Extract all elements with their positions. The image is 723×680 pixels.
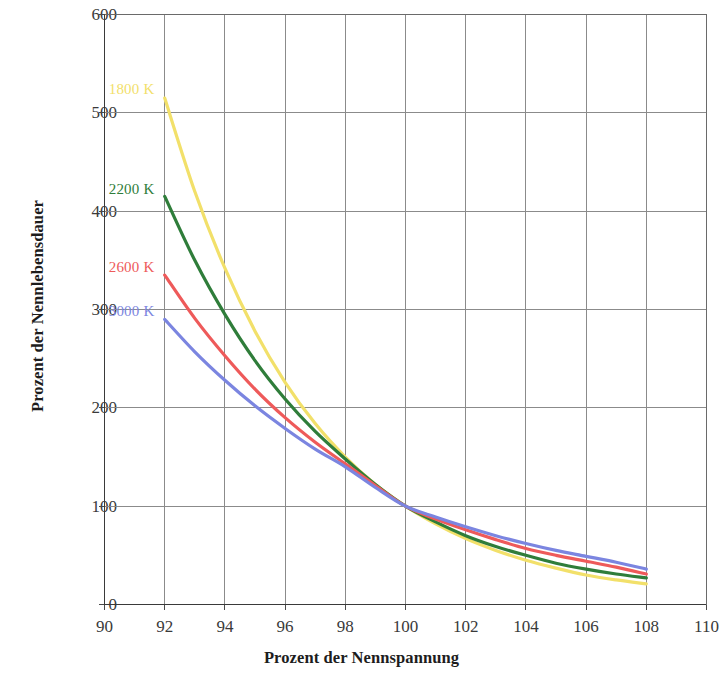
series-label-1800-k: 1800 K [109, 82, 155, 97]
series-label-2200-k: 2200 K [109, 182, 155, 197]
chart-container: Prozent der Nennlebensdauer 600500400300… [0, 0, 723, 680]
series-label-2600-k: 2600 K [109, 260, 155, 275]
plot-area [0, 0, 723, 680]
series-label-3000-k: 3000 K [109, 304, 155, 319]
x-axis-title: Prozent der Nennspannung [0, 648, 723, 668]
